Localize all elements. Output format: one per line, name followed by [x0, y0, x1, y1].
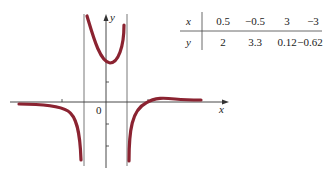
table-cell-x: −3: [307, 15, 319, 27]
origin-label: 0: [96, 104, 102, 116]
table-cell-y: −0.62: [297, 36, 322, 48]
table-cell-x: 0.5: [216, 15, 230, 27]
curve-left-branch: [19, 104, 81, 160]
curve-right-branch: [129, 98, 201, 161]
y-axis-arrow-icon: [104, 14, 109, 21]
table-cell-y: 2: [220, 36, 226, 48]
function-graph: y x 0 x y 0.5 −0.5 3 −3 2 3.3 0.12 −0.62: [0, 0, 326, 175]
table-row-label-y: y: [185, 36, 191, 48]
y-axis-label: y: [109, 11, 115, 23]
y-axis: [104, 14, 110, 168]
value-table: x y 0.5 −0.5 3 −3 2 3.3 0.12 −0.62: [180, 12, 323, 50]
x-axis-label: x: [218, 103, 224, 115]
table-cell-y: 0.12: [277, 36, 296, 48]
curve-middle-branch: [87, 16, 124, 63]
table-cell-y: 3.3: [248, 36, 262, 48]
table-row-label-x: x: [185, 15, 191, 27]
table-cell-x: −0.5: [245, 15, 265, 27]
table-cell-x: 3: [284, 15, 290, 27]
